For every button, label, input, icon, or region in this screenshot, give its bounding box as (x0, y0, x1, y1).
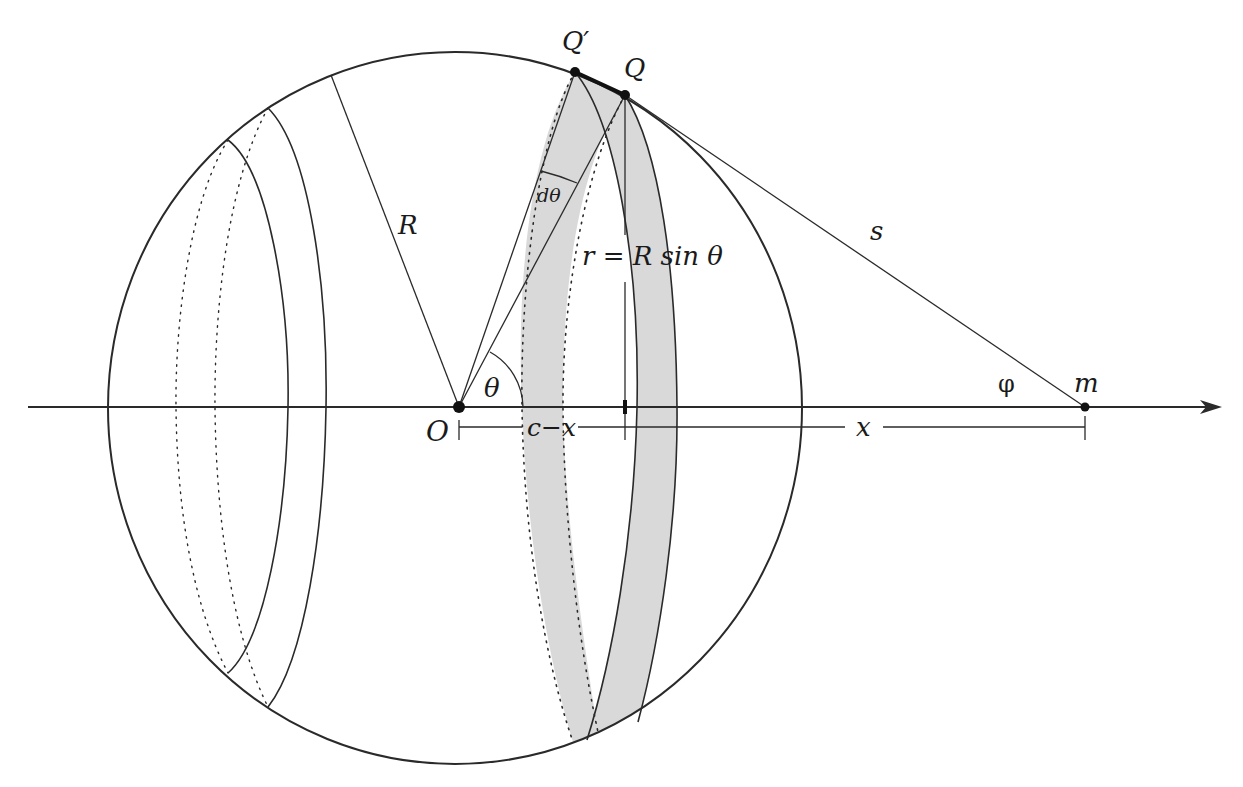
radius-line (331, 75, 459, 407)
label-s: s (870, 216, 883, 246)
label-d-theta: dθ (537, 184, 561, 206)
point-m (1081, 403, 1090, 412)
label-x: x (856, 412, 871, 442)
label-o: O (426, 415, 449, 448)
label-c-minus-x: c−x (527, 413, 576, 442)
label-phi: φ (998, 370, 1015, 398)
label-theta: θ (484, 373, 500, 403)
sphere-ring-diagram: Q′ Q dθ R r = R sin θ s θ φ m O c−x x (0, 0, 1243, 787)
label-ring-radius: r = R sin θ (582, 241, 723, 271)
point-o (453, 401, 465, 413)
point-q-prime (570, 67, 580, 77)
label-q: Q (624, 53, 645, 83)
label-q-prime: Q′ (562, 26, 589, 56)
label-radius-r: R (397, 210, 418, 240)
label-m: m (1074, 368, 1099, 398)
point-q (620, 90, 630, 100)
